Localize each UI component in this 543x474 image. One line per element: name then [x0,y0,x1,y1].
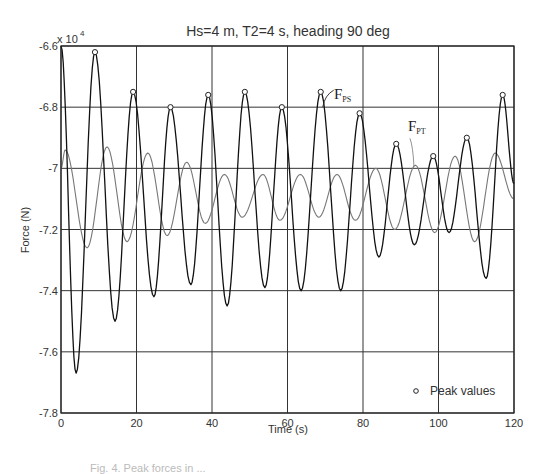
y-tick-label: -6.8 [39,101,58,113]
figure-caption: Fig. 4. Peak forces in ... [90,462,206,474]
y-tick-label: -6.6 [39,40,58,52]
y-tick-label: -7.4 [39,285,58,297]
peak-marker [500,92,505,97]
peak-marker [206,92,211,97]
x-axis-label: Time (s) [268,423,308,435]
fpt-label: FPT [408,118,426,136]
grid [61,46,514,413]
y-tick-label: -7.2 [39,224,58,236]
fps-label: FPS [334,86,351,104]
peak-marker [318,89,323,94]
x-tick-label: 0 [58,417,64,429]
y-tick-label: -7 [48,162,58,174]
peak-marker [279,105,284,110]
peak-marker [464,135,469,140]
chart-title: Hs=4 m, T2=4 s, heading 90 deg [186,23,390,39]
peak-marker [431,154,436,159]
peak-markers [92,50,505,159]
legend-peak-label: Peak values [430,384,495,398]
legend: Peak values [414,384,496,398]
peak-marker [394,141,399,146]
y-tick-label: -7.6 [39,346,58,358]
y-tick-label: -7.8 [39,407,58,419]
peak-marker [92,50,97,55]
peak-marker [242,89,247,94]
peak-marker [168,105,173,110]
peak-marker [357,111,362,116]
y-multiplier-exponent: 4 [80,29,85,38]
x-tick-label: 80 [357,417,369,429]
peak-marker [131,89,136,94]
x-tick-label: 20 [130,417,142,429]
y-axis-ticks: -6.6-6.8-7-7.2-7.4-7.6-7.8 [39,40,58,419]
legend-peak-marker [414,389,419,394]
y-multiplier: x 10 4 [57,29,85,45]
label-fps: FPS [323,86,352,107]
fpt-leader-line [410,138,414,166]
x-tick-label: 40 [206,417,218,429]
y-axis-label: Force (N) [19,207,31,253]
x-tick-label: 120 [505,417,523,429]
label-fpt: FPT [408,118,426,166]
x-tick-label: 100 [429,417,447,429]
y-multiplier-label: x 10 [57,33,78,45]
